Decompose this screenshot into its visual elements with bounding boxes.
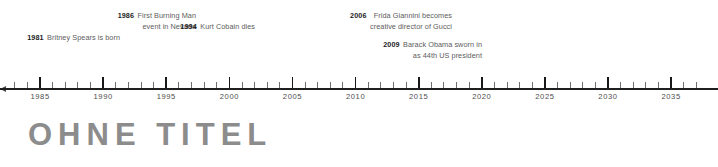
- axis-tick-label: 2020: [472, 92, 491, 101]
- axis-minor-tick: [115, 82, 116, 88]
- axis-minor-tick: [27, 82, 28, 88]
- timeline-event-line: as 44th US president: [403, 51, 482, 62]
- timeline-event-year: 1994: [180, 22, 196, 31]
- axis-minor-tick: [368, 82, 369, 88]
- axis-minor-tick: [443, 82, 444, 88]
- axis-major-tick: [165, 77, 167, 88]
- axis-minor-tick: [696, 82, 697, 88]
- axis-major-tick: [39, 77, 41, 88]
- axis-major-tick: [355, 77, 357, 88]
- timeline-event-year: 2009: [383, 40, 399, 49]
- timeline-event-line: creative director of Gucci: [370, 22, 452, 33]
- axis-minor-tick: [393, 82, 394, 88]
- axis-minor-tick: [570, 82, 571, 88]
- axis-minor-tick: [330, 82, 331, 88]
- axis-major-tick: [102, 77, 104, 88]
- axis-tick-label: 2005: [283, 92, 302, 101]
- timeline-event-line: Kurt Cobain dies: [200, 22, 255, 33]
- timeline-events-layer: 1981Britney Spears is born1986First Burn…: [0, 0, 718, 72]
- axis-minor-tick: [128, 82, 129, 88]
- axis-tick-label: 2000: [220, 92, 239, 101]
- axis-minor-tick: [456, 82, 457, 88]
- axis-minor-tick: [557, 82, 558, 88]
- axis-minor-tick: [242, 82, 243, 88]
- timeline-event-description: Barack Obama sworn inas 44th US presiden…: [403, 40, 482, 61]
- timeline-event: 1994Kurt Cobain dies: [180, 22, 255, 33]
- timeline-event-line: Barack Obama sworn in: [403, 40, 482, 51]
- axis-minor-tick: [305, 82, 306, 88]
- timeline-event-year: 1986: [118, 11, 134, 20]
- axis-tick-label: 1990: [94, 92, 113, 101]
- axis-minor-tick: [683, 82, 684, 88]
- axis-minor-tick: [633, 82, 634, 88]
- axis-major-tick: [229, 77, 231, 88]
- axis-minor-tick: [532, 82, 533, 88]
- axis-minor-tick: [620, 82, 621, 88]
- axis-minor-tick: [645, 82, 646, 88]
- axis-minor-tick: [204, 82, 205, 88]
- axis-minor-tick: [77, 82, 78, 88]
- axis-tick-label: 2025: [535, 92, 554, 101]
- axis-minor-tick: [658, 82, 659, 88]
- axis-minor-tick: [216, 82, 217, 88]
- timeline-event-line: First Burning Man: [138, 11, 196, 22]
- axis-tick-label: 2010: [346, 92, 365, 101]
- axis-minor-tick: [14, 82, 15, 88]
- axis-minor-tick: [141, 82, 142, 88]
- axis-minor-tick: [317, 82, 318, 88]
- axis-major-tick: [670, 77, 672, 88]
- axis-minor-tick: [254, 82, 255, 88]
- axis-minor-tick: [519, 82, 520, 88]
- axis-minor-tick: [52, 82, 53, 88]
- timeline-event-year: 2006: [350, 11, 366, 20]
- axis-minor-tick: [342, 82, 343, 88]
- timeline-event: 2009Barack Obama sworn inas 44th US pres…: [383, 40, 482, 61]
- axis-major-tick: [607, 77, 609, 88]
- axis-minor-tick: [90, 82, 91, 88]
- axis-minor-tick: [267, 82, 268, 88]
- axis-minor-tick: [191, 82, 192, 88]
- timeline-event-line: Frida Giannini becomes: [370, 11, 452, 22]
- page-title: OHNE TITEL: [28, 116, 272, 154]
- axis-major-tick: [418, 77, 420, 88]
- timeline-event-line: Britney Spears is born: [47, 33, 120, 44]
- axis-tick-label: 2015: [409, 92, 428, 101]
- axis-major-tick: [292, 77, 294, 88]
- timeline-event-description: Britney Spears is born: [47, 33, 120, 44]
- axis-major-tick: [481, 77, 483, 88]
- timeline-event-description: Kurt Cobain dies: [200, 22, 255, 33]
- axis-minor-tick: [494, 82, 495, 88]
- axis-line: [0, 88, 718, 90]
- axis-major-tick: [544, 77, 546, 88]
- axis-minor-tick: [153, 82, 154, 88]
- axis-minor-tick: [507, 82, 508, 88]
- axis-minor-tick: [469, 82, 470, 88]
- timeline-event-description: Frida Giannini becomescreative director …: [370, 11, 452, 32]
- axis-minor-tick: [65, 82, 66, 88]
- axis-minor-tick: [406, 82, 407, 88]
- axis-minor-tick: [431, 82, 432, 88]
- axis-tick-label: 2030: [598, 92, 617, 101]
- timeline-event: 2006Frida Giannini becomescreative direc…: [350, 11, 452, 32]
- axis-minor-tick: [380, 82, 381, 88]
- axis-minor-tick: [582, 82, 583, 88]
- timeline-event-year: 1981: [27, 33, 43, 42]
- axis-minor-tick: [178, 82, 179, 88]
- timeline-event: 1981Britney Spears is born: [27, 33, 120, 44]
- axis-minor-tick: [595, 82, 596, 88]
- timeline-axis: 1985199019952000200520102015202020252030…: [0, 74, 718, 104]
- axis-minor-tick: [279, 82, 280, 88]
- axis-tick-label: 2035: [661, 92, 680, 101]
- axis-tick-label: 1985: [30, 92, 49, 101]
- axis-tick-label: 1995: [157, 92, 176, 101]
